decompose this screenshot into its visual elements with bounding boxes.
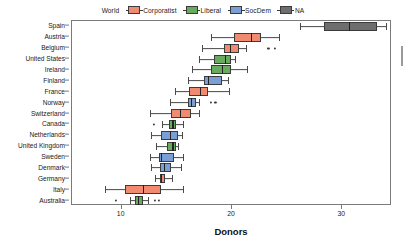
outlier-point [210, 102, 212, 104]
whisker-cap [183, 121, 184, 128]
whisker-cap [162, 121, 163, 128]
legend-swatch-icon [280, 6, 292, 14]
boxplot-row[interactable] [72, 108, 390, 119]
whisker-cap [246, 45, 247, 52]
legend-label: Liberal [201, 7, 222, 14]
outlier-point [274, 47, 276, 49]
y-axis-tick [65, 134, 69, 135]
median-line [170, 131, 171, 140]
legend-swatch-icon [186, 6, 198, 14]
median-line [251, 33, 252, 42]
x-axis-title: Donors [71, 226, 391, 237]
y-axis-label: Austria [44, 33, 65, 40]
y-axis-labels: SpainAustriaBelgiumUnited StatesIrelandF… [0, 20, 69, 205]
boxplot-row[interactable] [72, 97, 390, 108]
y-axis-label: Germany [38, 174, 65, 181]
legend-swatch-icon [230, 6, 242, 14]
legend-item-na[interactable]: NA [280, 6, 304, 14]
legend-item-socdem[interactable]: SocDem [230, 6, 271, 14]
x-axis-tick [341, 205, 342, 209]
boxplot-row[interactable] [72, 64, 390, 75]
whisker-cap [229, 88, 230, 95]
boxplot-row[interactable] [72, 21, 390, 32]
whisker-cap [178, 143, 179, 150]
y-axis-tick [65, 47, 69, 48]
y-axis-label: Spain [48, 22, 65, 29]
boxplot-row[interactable] [72, 54, 390, 65]
whisker-cap [300, 23, 301, 30]
whisker-cap [202, 45, 203, 52]
box-spain[interactable] [324, 22, 377, 31]
whisker-cap [150, 154, 151, 161]
y-axis-tick [65, 177, 69, 178]
x-axis: 102030 [71, 205, 391, 221]
y-axis-tick [65, 112, 69, 113]
whisker-cap [156, 143, 157, 150]
median-line [208, 76, 209, 85]
boxplot-row[interactable] [72, 86, 390, 97]
whisker-cap [183, 186, 184, 193]
median-line [161, 174, 162, 183]
whisker-cap [247, 66, 248, 73]
box-denmark[interactable] [160, 163, 171, 172]
right-edge-marker [401, 46, 403, 66]
boxplot-row[interactable] [72, 152, 390, 163]
whisker-cap [279, 34, 280, 41]
box-belgium[interactable] [224, 44, 238, 53]
y-axis-tick [65, 188, 69, 189]
legend-item-world[interactable]: World [102, 7, 120, 14]
y-axis-tick [65, 79, 69, 80]
box-france[interactable] [189, 87, 208, 96]
boxplot-row[interactable] [72, 162, 390, 173]
legend-label: World [102, 7, 120, 14]
y-axis-label: Italy [53, 185, 65, 192]
chart-legend: WorldCorporatistLiberalSocDemNA [0, 2, 406, 18]
median-line [172, 142, 173, 151]
y-axis-label: France [44, 87, 65, 94]
boxplot-row[interactable] [72, 184, 390, 195]
plot-area [71, 20, 391, 205]
whisker-cap [105, 186, 106, 193]
whisker-cap [386, 23, 387, 30]
y-axis-label: Norway [43, 98, 65, 105]
y-axis-tick [65, 25, 69, 26]
whisker-cap [172, 175, 173, 182]
box-switzerland[interactable] [171, 109, 191, 118]
median-line [138, 196, 139, 205]
whisker-cap [155, 175, 156, 182]
legend-item-liberal[interactable]: Liberal [186, 6, 222, 14]
boxplot-row[interactable] [72, 43, 390, 54]
boxplot-row[interactable] [72, 141, 390, 152]
median-line [225, 55, 226, 64]
boxplot-row[interactable] [72, 75, 390, 86]
y-axis-label: Canada [42, 120, 65, 127]
y-axis-tick [65, 36, 69, 37]
box-united-kingdom[interactable] [167, 142, 176, 151]
median-line [172, 120, 173, 129]
boxplot-row[interactable] [72, 173, 390, 184]
legend-label: NA [295, 7, 304, 14]
y-axis-tick [65, 156, 69, 157]
median-line [180, 109, 181, 118]
boxplot-row[interactable] [72, 119, 390, 130]
legend-label: SocDem [245, 7, 271, 14]
outlier-point [115, 199, 117, 201]
box-ireland[interactable] [211, 65, 231, 74]
outlier-point [267, 47, 269, 49]
y-axis-tick [65, 101, 69, 102]
x-axis-tick [121, 205, 122, 209]
median-line [161, 153, 162, 162]
median-line [191, 98, 192, 107]
whisker-cap [150, 110, 151, 117]
box-austria[interactable] [234, 33, 260, 42]
y-axis-label: Australia [39, 196, 65, 203]
boxplot-row[interactable] [72, 130, 390, 141]
legend-label: Corporatist [143, 7, 176, 14]
box-united-states[interactable] [214, 55, 231, 64]
median-line [349, 22, 350, 31]
boxplot-row[interactable] [72, 32, 390, 43]
y-axis-label: Sweden [41, 153, 65, 160]
y-axis-tick [65, 90, 69, 91]
legend-item-corporatist[interactable]: Corporatist [128, 6, 176, 14]
y-axis-tick [65, 145, 69, 146]
